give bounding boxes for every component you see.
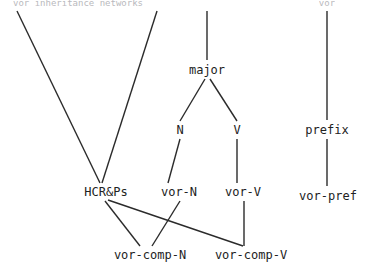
node-n: N [176, 123, 183, 137]
edge-hcrps-to-vor-comp-v [108, 200, 243, 246]
diagram-canvas: vor inheritance networksvor majorNVprefi… [0, 0, 372, 272]
node-vor-comp-v: vor-comp-V [215, 248, 287, 262]
node-prefix: prefix [305, 123, 348, 137]
node-vor-comp-n: vor-comp-N [114, 248, 186, 262]
node-v: V [233, 123, 240, 137]
node-vor-v: vor-V [225, 185, 261, 199]
edge-hcrps-to-vor-comp-n [105, 201, 140, 246]
edge-major-to-n [180, 79, 205, 121]
node-vor-pref: vor-pref [299, 189, 357, 203]
edge-topleft-to-hcrps [17, 11, 100, 183]
node-major: major [189, 63, 225, 77]
edge-n-to-vor-n [168, 139, 180, 183]
node-hcrps: HCR&Ps [84, 185, 127, 199]
header-right: vor [319, 0, 335, 8]
node-vor-n: vor-N [161, 185, 197, 199]
header-left: vor inheritance networks [13, 0, 143, 8]
edge-topmid-to-hcrps [102, 11, 157, 183]
edge-major-to-v [210, 79, 237, 121]
